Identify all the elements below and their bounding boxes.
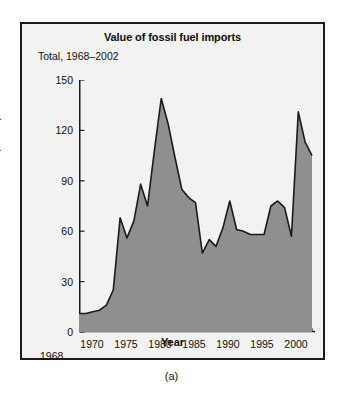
x-axis-start-label: 1968 xyxy=(40,350,63,362)
chart-subtitle: Total, 1968–2002 xyxy=(38,50,119,62)
chart-title: Value of fossil fuel imports xyxy=(22,31,323,43)
data-area-fill xyxy=(79,98,312,332)
y-tick-label-60: 60 xyxy=(39,225,73,237)
y-tick-label-30: 30 xyxy=(39,276,73,288)
y-tick-label-90: 90 xyxy=(39,175,73,187)
y-axis-label-line2: dollars (billions) xyxy=(0,24,1,276)
plot-area xyxy=(79,80,312,332)
figure-caption: (a) xyxy=(0,370,343,382)
area-chart-svg xyxy=(79,80,319,342)
y-tick-label-150: 150 xyxy=(39,74,73,86)
y-axis-label: Inflation-corrected costs of fossil fuel… xyxy=(0,0,14,24)
figure-panel: Value of fossil fuel imports Total, 1968… xyxy=(20,22,325,360)
y-tick-label-120: 120 xyxy=(39,124,73,136)
